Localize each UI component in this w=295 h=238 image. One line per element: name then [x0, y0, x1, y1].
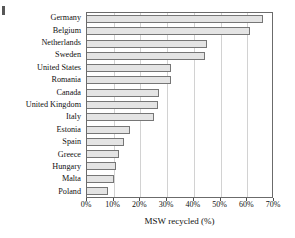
category-axis-labels: GermanyBelgiumNetherlandsSwedenUnited St…: [0, 12, 84, 198]
category-label: Germany: [0, 12, 84, 24]
bar: [87, 138, 124, 146]
bar-row: [87, 172, 272, 184]
bar-series: [87, 13, 272, 197]
bar-row: [87, 136, 272, 148]
category-label: Netherlands: [0, 37, 84, 49]
category-label: United Kingdom: [0, 99, 84, 111]
bar-row: [87, 148, 272, 160]
bar: [87, 89, 159, 97]
bar: [87, 101, 158, 109]
bar-row: [87, 25, 272, 37]
plot-area: [86, 12, 273, 198]
bar: [87, 126, 130, 134]
bar-row: [87, 123, 272, 135]
x-tick-label: 0%: [81, 201, 92, 209]
bar: [87, 76, 171, 84]
figure-container: GermanyBelgiumNetherlandsSwedenUnited St…: [0, 0, 295, 238]
bar: [87, 175, 114, 183]
category-label: Italy: [0, 111, 84, 123]
category-label: Canada: [0, 86, 84, 98]
bar-row: [87, 87, 272, 99]
x-tick-label: 30%: [159, 201, 174, 209]
bar-row: [87, 160, 272, 172]
x-tick-label: 10%: [105, 201, 120, 209]
category-label: Spain: [0, 136, 84, 148]
bar-row: [87, 111, 272, 123]
x-tick-label: 20%: [132, 201, 147, 209]
category-label: Malta: [0, 173, 84, 185]
bar: [87, 187, 108, 195]
category-label: Estonia: [0, 124, 84, 136]
bar-row: [87, 38, 272, 50]
category-label: Sweden: [0, 49, 84, 61]
bar-row: [87, 50, 272, 62]
bar-row: [87, 99, 272, 111]
bar: [87, 64, 171, 72]
bar-row: [87, 74, 272, 86]
x-axis-tick-labels: 0%10%20%30%40%50%60%70%: [86, 201, 273, 213]
x-tick-label: 40%: [186, 201, 201, 209]
bar: [87, 162, 116, 170]
category-label: Poland: [0, 186, 84, 198]
bar-row: [87, 185, 272, 197]
category-label: Romania: [0, 74, 84, 86]
category-label: United States: [0, 62, 84, 74]
x-tick-label: 50%: [212, 201, 227, 209]
bar: [87, 15, 263, 23]
category-label: Hungary: [0, 161, 84, 173]
bar-row: [87, 62, 272, 74]
x-axis-title: MSW recycled (%): [86, 217, 273, 226]
bar-row: [87, 13, 272, 25]
bar: [87, 27, 250, 35]
bar: [87, 40, 207, 48]
x-tick-label: 60%: [239, 201, 254, 209]
bar: [87, 150, 119, 158]
category-label: Greece: [0, 148, 84, 160]
bar: [87, 52, 205, 60]
bar: [87, 113, 154, 121]
x-tick-label: 70%: [266, 201, 281, 209]
category-label: Belgium: [0, 24, 84, 36]
